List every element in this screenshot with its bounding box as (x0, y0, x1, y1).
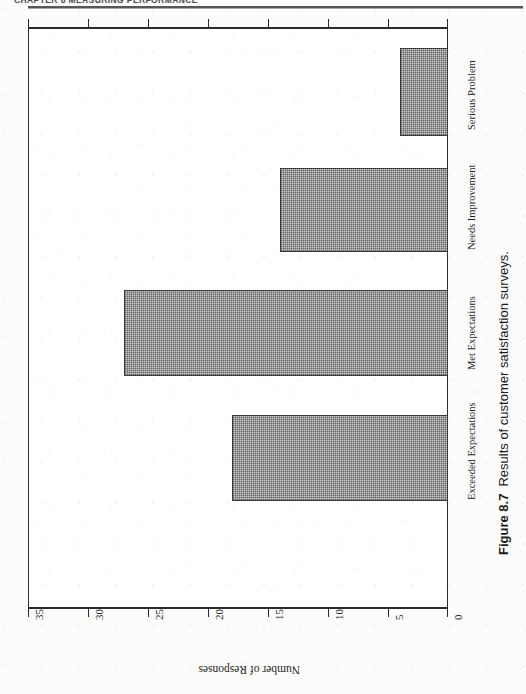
figure-caption: Figure 8.7Results of customer satisfacti… (496, 251, 511, 555)
tick-bottom-10 (328, 608, 329, 617)
bar-serious-problem (400, 48, 448, 136)
tick-label-10: 10 (333, 609, 345, 620)
bar-met-expectations (124, 290, 448, 376)
tick-top-10 (328, 19, 329, 28)
tick-label-35: 35 (33, 609, 45, 620)
tick-top-20 (208, 19, 209, 28)
tick-bottom-20 (208, 608, 209, 617)
tick-top-25 (148, 19, 149, 28)
tick-top-0 (447, 19, 448, 28)
tick-bottom-25 (148, 608, 149, 617)
tick-label-25: 25 (153, 609, 165, 620)
tick-label-15: 15 (273, 609, 285, 620)
bar-needs-improvement (280, 168, 448, 252)
axis-title-responses: Number of Responses (198, 664, 300, 676)
figure-caption-text: Results of customer satisfaction surveys… (496, 251, 511, 487)
tick-bottom-0 (447, 608, 448, 617)
category-label-needs-improvement: Needs Improvement (466, 165, 477, 250)
tick-top-15 (268, 19, 269, 28)
bar-exceeded-expectations (232, 415, 448, 501)
tick-bottom-35 (28, 608, 29, 617)
category-label-serious-problem: Serious Problem (466, 60, 477, 130)
tick-label-20: 20 (213, 609, 225, 620)
scanned-page: CHAPTER 8 MEASURING PERFORMANCE 35 30 25… (0, 0, 526, 694)
figure-caption-number: Figure 8.7 (496, 494, 511, 555)
tick-bottom-30 (88, 608, 89, 617)
tick-label-0: 0 (452, 615, 464, 621)
tick-top-35 (28, 19, 29, 28)
tick-bottom-15 (268, 608, 269, 617)
tick-top-30 (88, 19, 89, 28)
tick-label-30: 30 (93, 609, 105, 620)
category-label-exceeded-expectations: Exceeded Expectations (466, 402, 477, 500)
category-label-met-expectations: Met Expectations (466, 296, 477, 370)
tick-label-5: 5 (393, 615, 405, 621)
axis-top-line (28, 27, 448, 29)
tick-top-5 (388, 19, 389, 28)
figure-block: 35 30 25 20 15 10 5 0 Number of Response… (0, 0, 526, 694)
axis-bottom-line (28, 607, 448, 609)
tick-bottom-5 (388, 608, 389, 617)
